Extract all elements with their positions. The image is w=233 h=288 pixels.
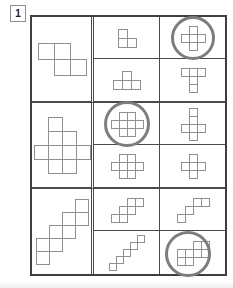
target-cell-row3 — [32, 189, 94, 274]
option-cell-row2-right-top[interactable] — [160, 103, 225, 145]
unit-square — [189, 42, 198, 51]
unit-square — [123, 249, 131, 257]
unit-square — [135, 198, 144, 207]
unit-square — [54, 59, 71, 76]
option-polyomino — [111, 198, 143, 222]
item-number-text: 1 — [15, 8, 21, 19]
unit-square — [116, 256, 124, 264]
unit-square — [36, 238, 50, 252]
unit-square — [131, 80, 141, 90]
unit-square — [109, 263, 117, 271]
unit-square — [189, 84, 198, 93]
unit-square — [70, 59, 87, 76]
option-cell-row1-right-bottom[interactable] — [160, 59, 225, 103]
option-polyomino — [181, 68, 205, 92]
unit-square — [197, 68, 206, 77]
option-polyomino — [177, 241, 209, 265]
unit-square — [49, 225, 63, 239]
unit-square — [34, 145, 49, 160]
option-polyomino — [118, 29, 136, 47]
unit-square — [48, 145, 63, 160]
unit-square — [137, 235, 145, 243]
target-cell-row1 — [32, 17, 94, 103]
unit-square — [197, 124, 206, 133]
unit-square — [62, 131, 77, 146]
option-polyomino — [111, 112, 143, 136]
unit-square — [185, 257, 194, 266]
option-cell-row2-middle-bottom[interactable] — [94, 145, 160, 189]
target-cell-row2 — [32, 103, 94, 189]
unit-square — [197, 162, 206, 171]
unit-square — [36, 251, 50, 265]
option-cell-row1-middle-top[interactable] — [94, 17, 160, 59]
option-polyomino — [177, 198, 209, 222]
unit-square — [135, 120, 144, 129]
option-cell-row3-middle-bottom[interactable] — [94, 231, 160, 274]
option-cell-row2-right-bottom[interactable] — [160, 145, 225, 189]
option-polyomino — [181, 26, 205, 50]
unit-square — [62, 159, 77, 174]
unit-square — [185, 206, 194, 215]
unit-square — [62, 145, 77, 160]
unit-square — [49, 238, 63, 252]
unit-square — [75, 212, 89, 226]
option-cell-row3-middle-top[interactable] — [94, 189, 160, 231]
unit-square — [130, 242, 138, 250]
unit-square — [62, 225, 76, 239]
unit-square — [127, 170, 136, 179]
unit-square — [38, 43, 55, 60]
option-cell-row1-middle-bottom[interactable] — [94, 59, 160, 103]
unit-square — [189, 132, 198, 141]
scan-shadow — [0, 281, 233, 288]
unit-square — [62, 212, 76, 226]
unit-square — [127, 206, 136, 215]
option-cell-row3-right-bottom[interactable] — [160, 231, 225, 274]
unit-square — [48, 159, 63, 174]
option-polyomino — [109, 235, 144, 270]
item-number: 1 — [10, 5, 26, 22]
option-cell-row1-right-top[interactable] — [160, 17, 225, 59]
option-polyomino — [181, 108, 205, 140]
unit-square — [48, 131, 63, 146]
unit-square — [75, 199, 89, 213]
target-polyomino-row2 — [34, 117, 90, 173]
option-polyomino — [111, 154, 143, 178]
unit-square — [177, 214, 186, 223]
option-polyomino — [113, 71, 140, 89]
unit-square — [54, 43, 71, 60]
unit-square — [48, 117, 63, 132]
target-polyomino-row3 — [36, 199, 88, 264]
unit-square — [201, 198, 210, 207]
puzzle-grid — [30, 15, 227, 276]
unit-square — [135, 162, 144, 171]
option-polyomino — [181, 154, 205, 178]
target-polyomino-row1 — [38, 43, 86, 75]
unit-square — [119, 214, 128, 223]
unit-square — [127, 128, 136, 137]
unit-square — [201, 249, 210, 258]
option-cell-row2-middle-top[interactable] — [94, 103, 160, 145]
unit-square — [76, 145, 91, 160]
unit-square — [127, 38, 137, 48]
unit-square — [197, 34, 206, 43]
unit-square — [189, 170, 198, 179]
option-cell-row3-right-top[interactable] — [160, 189, 225, 231]
